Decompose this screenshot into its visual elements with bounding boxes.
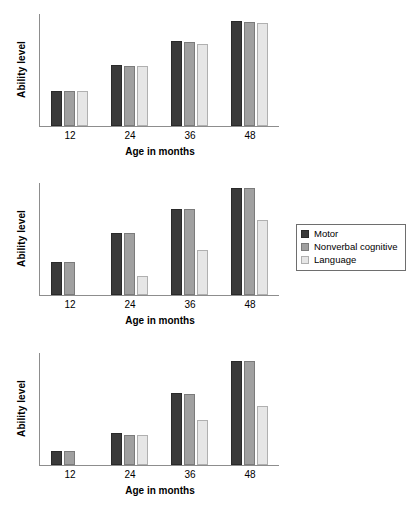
x-tick-label: 48: [220, 130, 280, 141]
legend-label: Nonverbal cognitive: [314, 242, 397, 252]
chart-panel-1: Ability level: [0, 0, 300, 169]
bar-groups-2: [40, 183, 279, 295]
bar-motor: [171, 209, 182, 295]
bar-motor: [111, 65, 122, 126]
x-axis-tick-labels: 12 24 36 48: [40, 130, 280, 141]
bar-motor: [171, 393, 182, 465]
x-axis-tick-labels: 12 24 36 48: [40, 469, 280, 480]
legend-label: Motor: [314, 229, 338, 239]
plot-area-1: [39, 14, 279, 127]
x-tick-label: 36: [160, 469, 220, 480]
chart-legend: Motor Nonverbal cognitive Language: [296, 224, 406, 271]
legend-item-language: Language: [301, 254, 401, 266]
bar-group: [40, 353, 100, 465]
bar-group: [100, 353, 160, 465]
x-axis-line: [39, 295, 279, 296]
bar-motor: [231, 361, 242, 465]
bar-group: [100, 14, 160, 126]
chart-panel-3: Ability level: [0, 339, 300, 508]
bar-language: [257, 23, 268, 126]
bar-language: [137, 435, 148, 466]
bar-group: [160, 353, 220, 465]
x-tick-label: 48: [220, 299, 280, 310]
bar-nonverbal-cognitive: [64, 91, 75, 126]
x-tick-label: 36: [160, 299, 220, 310]
x-tick-label: 12: [40, 299, 100, 310]
x-tick-label: 24: [100, 299, 160, 310]
bar-group: [40, 183, 100, 295]
bar-motor: [171, 41, 182, 126]
bar-nonverbal-cognitive: [124, 233, 135, 295]
bar-motor: [51, 262, 62, 295]
x-tick-label: 24: [100, 130, 160, 141]
figure-three-bar-charts: Ability level: [0, 0, 414, 508]
bar-nonverbal-cognitive: [244, 188, 255, 295]
bar-motor: [51, 451, 62, 465]
bar-group: [219, 14, 279, 126]
plot-area-3: [39, 353, 279, 466]
x-tick-label: 24: [100, 469, 160, 480]
y-axis-title: Ability level: [10, 183, 32, 293]
bar-nonverbal-cognitive: [184, 394, 195, 465]
legend-item-nonverbal-cognitive: Nonverbal cognitive: [301, 241, 401, 253]
bar-motor: [231, 188, 242, 295]
bar-nonverbal-cognitive: [124, 66, 135, 126]
x-axis-title: Age in months: [40, 146, 280, 157]
bar-nonverbal-cognitive: [184, 42, 195, 126]
x-tick-label: 48: [220, 469, 280, 480]
bar-language: [197, 44, 208, 126]
legend-item-motor: Motor: [301, 228, 401, 240]
plot-area-2: [39, 183, 279, 296]
x-axis-title: Age in months: [40, 485, 280, 496]
bar-group: [40, 14, 100, 126]
bar-nonverbal-cognitive: [64, 451, 75, 465]
square-swatch-icon: [301, 230, 309, 238]
bar-group: [160, 183, 220, 295]
bar-motor: [111, 233, 122, 295]
x-axis-line: [39, 465, 279, 466]
bar-nonverbal-cognitive: [124, 435, 135, 466]
bar-motor: [51, 91, 62, 126]
x-tick-label: 12: [40, 130, 100, 141]
bar-language: [77, 91, 88, 126]
legend-label: Language: [314, 255, 356, 265]
x-tick-label: 12: [40, 469, 100, 480]
bar-language: [137, 66, 148, 126]
bar-nonverbal-cognitive: [244, 361, 255, 465]
bar-motor: [111, 433, 122, 465]
bar-language: [257, 220, 268, 295]
bar-nonverbal-cognitive: [184, 209, 195, 295]
x-axis-title: Age in months: [40, 315, 280, 326]
chart-panel-2: Ability level: [0, 169, 300, 338]
bar-group: [100, 183, 160, 295]
y-axis-title: Ability level: [10, 14, 32, 124]
bar-group: [219, 353, 279, 465]
bar-group: [219, 183, 279, 295]
bar-nonverbal-cognitive: [244, 22, 255, 126]
x-axis-line: [39, 126, 279, 127]
bar-groups-3: [40, 353, 279, 465]
bar-language: [197, 420, 208, 465]
y-axis-title: Ability level: [10, 353, 32, 463]
square-swatch-icon: [301, 243, 309, 251]
bar-group: [160, 14, 220, 126]
bar-language: [137, 276, 148, 295]
x-tick-label: 36: [160, 130, 220, 141]
bar-motor: [231, 21, 242, 126]
bar-groups-1: [40, 14, 279, 126]
bar-language: [257, 406, 268, 465]
x-axis-tick-labels: 12 24 36 48: [40, 299, 280, 310]
square-swatch-icon: [301, 256, 309, 264]
bar-language: [197, 250, 208, 295]
bar-nonverbal-cognitive: [64, 262, 75, 295]
